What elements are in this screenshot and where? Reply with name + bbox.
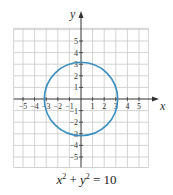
svg-text:5: 5 [137, 102, 141, 111]
svg-text:1: 1 [91, 102, 95, 111]
svg-text:−4: −4 [69, 141, 78, 150]
svg-text:−1: −1 [69, 107, 78, 116]
svg-text:2: 2 [74, 72, 78, 81]
svg-text:2: 2 [102, 102, 106, 111]
svg-text:−2: −2 [69, 118, 78, 127]
svg-text:1: 1 [74, 83, 78, 92]
caption-plus: + [66, 172, 80, 187]
svg-text:4: 4 [74, 49, 78, 58]
svg-text:−2: −2 [54, 102, 63, 111]
svg-text:4: 4 [125, 102, 129, 111]
y-axis-label: y [69, 7, 76, 21]
svg-text:−5: −5 [19, 102, 28, 111]
caption-equals: = 10 [90, 172, 117, 187]
x-axis-arrow-icon [152, 97, 159, 102]
coordinate-plane: −5−4−3−2−112345−5−4−3−2−112345 x y [0, 0, 173, 170]
svg-text:−4: −4 [30, 102, 39, 111]
x-axis-label: x [159, 99, 166, 113]
y-axis-arrow-icon [79, 11, 84, 18]
axes [14, 11, 159, 167]
svg-text:3: 3 [74, 60, 78, 69]
svg-text:5: 5 [74, 37, 78, 46]
equation-caption: x2 + y2 = 10 [0, 172, 173, 188]
svg-text:−5: −5 [69, 153, 78, 162]
